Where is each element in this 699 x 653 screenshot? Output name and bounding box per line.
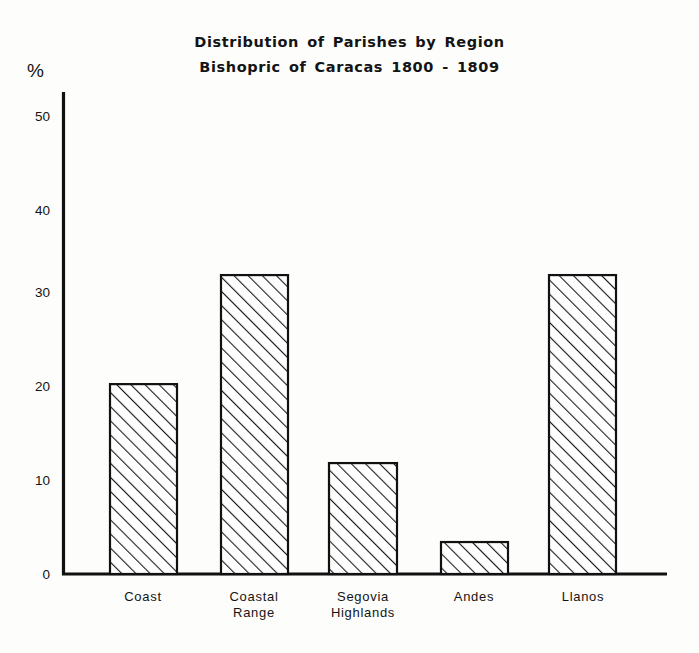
y-tick-label-50: 50 — [8, 109, 50, 124]
bar-segovia-highlands — [329, 463, 397, 574]
x-label-segovia-highlands: Segovia Highlands — [293, 589, 433, 621]
y-tick-label-0: 0 — [8, 567, 50, 582]
y-tick-label-30: 30 — [8, 285, 50, 300]
bar-llanos — [549, 275, 616, 574]
x-label-llanos: Llanos — [523, 589, 643, 605]
bars-group — [110, 275, 616, 574]
x-label-coast-line1: Coast — [124, 589, 161, 604]
y-tick-label-40: 40 — [8, 203, 50, 218]
bar-coastal-range — [221, 275, 288, 574]
bar-andes — [441, 542, 508, 574]
bar-chart-plot — [0, 0, 699, 653]
bar-coast — [110, 384, 177, 574]
x-label-andes: Andes — [414, 589, 534, 605]
x-label-andes-line1: Andes — [454, 589, 494, 604]
y-tick-label-20: 20 — [8, 379, 50, 394]
x-label-segovia-highlands-line1: Segovia — [337, 589, 389, 604]
chart-page: Distribution of Parishes by Region Bisho… — [0, 0, 699, 653]
x-label-llanos-line1: Llanos — [562, 589, 605, 604]
x-label-segovia-highlands-line2: Highlands — [293, 605, 433, 621]
y-tick-label-10: 10 — [8, 473, 50, 488]
x-label-coastal-range-line1: Coastal — [230, 589, 279, 604]
x-label-coast: Coast — [83, 589, 203, 605]
